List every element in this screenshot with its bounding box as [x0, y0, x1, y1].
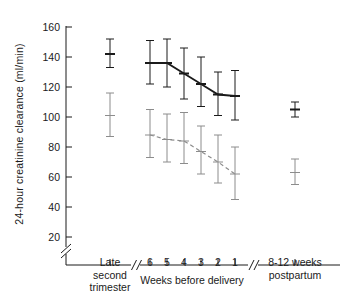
- error-bar-lower-series: [145, 110, 155, 158]
- error-bar-lower-series: [290, 159, 300, 185]
- error-bar-lower-series: [162, 114, 172, 162]
- series-upper-series: [105, 39, 300, 120]
- error-bar-upper-series: [290, 102, 300, 117]
- x-axis-break-mark-1: [132, 260, 137, 270]
- error-bar-lower-series: [105, 93, 115, 137]
- error-bar-lower-series: [179, 113, 189, 164]
- error-bar-upper-series: [162, 39, 172, 87]
- series-lower-series: [105, 93, 300, 200]
- error-bar-upper-series: [213, 72, 223, 116]
- series-layer: [105, 39, 300, 200]
- error-bar-lower-series: [213, 135, 223, 183]
- error-bar-upper-series: [230, 71, 240, 121]
- error-bar-upper-series: [105, 39, 115, 68]
- chart-figure: 24-hour creatinine clearance (ml/min) 16…: [0, 0, 346, 302]
- chart-plot-area: [0, 0, 346, 302]
- error-bar-upper-series: [179, 48, 189, 99]
- series-line-upper-series: [150, 63, 235, 96]
- error-bar-upper-series: [145, 41, 155, 85]
- series-line-lower-series: [150, 135, 235, 174]
- x-axis-break-mark-2: [249, 260, 254, 270]
- error-bar-lower-series: [230, 147, 240, 200]
